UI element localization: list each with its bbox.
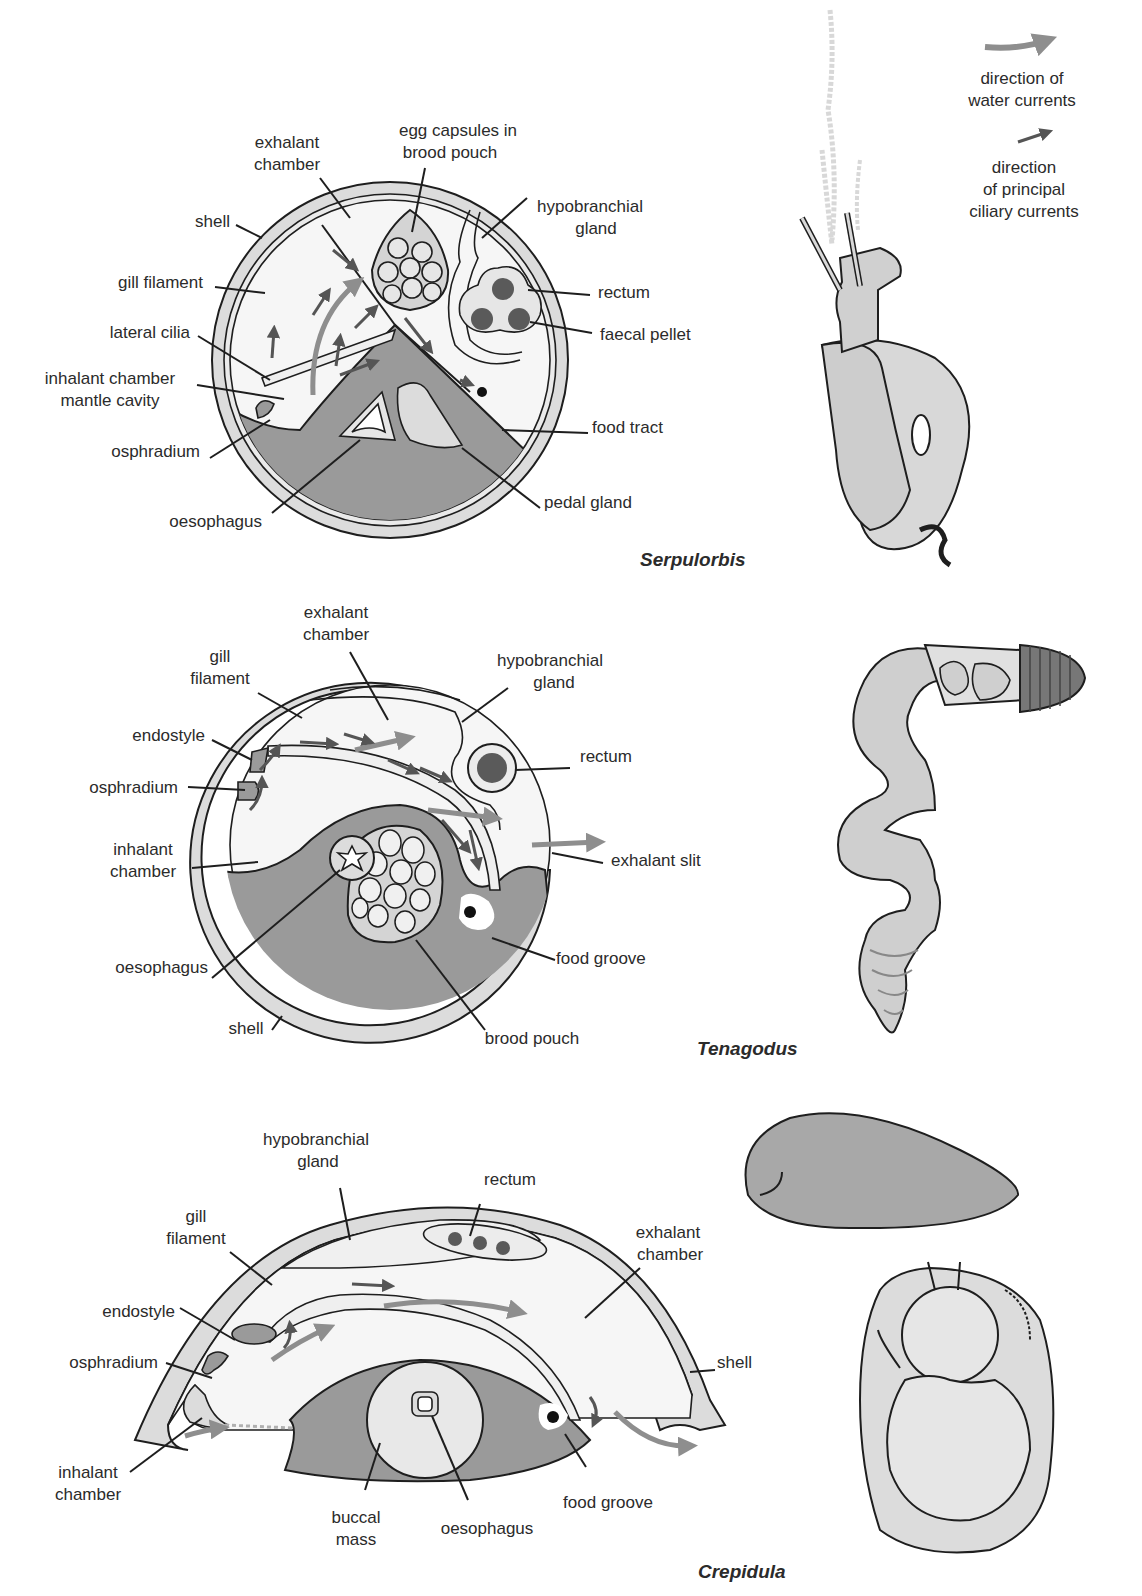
label-egg-capsules: egg capsules in — [399, 121, 517, 140]
label-lateral-cilia: lateral cilia — [110, 323, 191, 342]
label-shell: shell — [717, 1353, 752, 1372]
label-osphradium: osphradium — [111, 442, 200, 461]
faecal-pellet — [448, 1232, 462, 1246]
label-faecal-pellet: faecal pellet — [600, 325, 691, 344]
animal-head — [836, 248, 900, 352]
mucus-thread — [857, 160, 860, 230]
label-brood-pouch: brood pouch — [485, 1029, 580, 1048]
svg-text:hypobranchialgland: hypobranchialgland — [497, 651, 603, 692]
tenagodus-illustration — [838, 645, 1085, 1033]
label-gill-filament: gill — [210, 647, 231, 666]
svg-text:inhalantchamber: inhalantchamber — [110, 840, 176, 881]
faecal-pellet — [471, 308, 493, 330]
svg-text:exhalantchamber: exhalantchamber — [254, 133, 320, 174]
label-rectum: rectum — [580, 747, 632, 766]
label-gill-filament: gill filament — [118, 273, 203, 292]
tenagodus-section: exhalantchamber gillfilament hypobranchi… — [89, 603, 797, 1059]
rectum-lumen — [477, 753, 507, 783]
label-oesophagus: oesophagus — [115, 958, 208, 977]
mucus-thread — [822, 150, 832, 245]
label-inhalant-chamber: inhalant chamber — [45, 369, 176, 388]
label-gill-filament-2: filament — [190, 669, 250, 688]
label-endostyle: endostyle — [102, 1302, 175, 1321]
svg-text:exhalantchamber: exhalantchamber — [636, 1223, 704, 1264]
label-exhalant-chamber-2: chamber — [254, 155, 320, 174]
label-hypobranchial-gland-2: gland — [575, 219, 617, 238]
label-hypobranchial-gland-2: gland — [297, 1152, 339, 1171]
label-food-groove: food groove — [556, 949, 646, 968]
svg-text:inhalant chambermantle cavity: inhalant chambermantle cavity — [45, 369, 176, 410]
label-hypobranchial-gland: hypobranchial — [537, 197, 643, 216]
ciliary-current-arrow-icon — [1018, 132, 1048, 142]
label-hypobranchial-gland: hypobranchial — [497, 651, 603, 670]
faecal-pellet — [492, 278, 514, 300]
svg-text:inhalantchamber: inhalantchamber — [55, 1463, 121, 1504]
label-inhalant-chamber-2: chamber — [55, 1485, 121, 1504]
svg-text:hypobranchialgland: hypobranchialgland — [537, 197, 643, 238]
label-exhalant-chamber: exhalant — [255, 133, 320, 152]
food-particle — [477, 387, 487, 397]
svg-text:gillfilament: gillfilament — [166, 1207, 226, 1248]
shell-side-view — [746, 1113, 1019, 1228]
label-inhalant-chamber: inhalant — [58, 1463, 118, 1482]
svg-text:gillfilament: gillfilament — [190, 647, 250, 688]
serpulorbis-illustration — [802, 10, 969, 565]
faecal-pellet — [508, 308, 530, 330]
label-exhalant-chamber-2: chamber — [637, 1245, 703, 1264]
legend-water-line1: direction of — [980, 69, 1063, 88]
label-shell: shell — [229, 1019, 264, 1038]
svg-text:hypobranchialgland: hypobranchialgland — [263, 1130, 369, 1171]
label-egg-capsules-2: brood pouch — [403, 143, 498, 162]
legend: direction ofwater currents directionof p… — [967, 40, 1079, 221]
label-pedal-gland: pedal gland — [544, 493, 632, 512]
shell-aperture-hole — [912, 415, 930, 455]
label-inhalant-chamber: inhalant — [113, 840, 173, 859]
species-name-crepidula: Crepidula — [698, 1561, 786, 1582]
endostyle-shape — [250, 748, 268, 772]
svg-text:directionof principalciliary c: directionof principalciliary currents — [969, 158, 1079, 221]
label-inhalant-chamber-2: mantle cavity — [60, 391, 160, 410]
label-food-groove: food groove — [563, 1493, 653, 1512]
label-osphradium: osphradium — [89, 778, 178, 797]
label-food-tract: food tract — [592, 418, 663, 437]
food-particle — [547, 1411, 559, 1423]
label-exhalant-chamber: exhalant — [304, 603, 369, 622]
species-name-tenagodus: Tenagodus — [697, 1038, 798, 1059]
figure: direction ofwater currents directionof p… — [0, 0, 1142, 1596]
animal-foot — [887, 1376, 1030, 1520]
label-hypobranchial-gland: hypobranchial — [263, 1130, 369, 1149]
label-oesophagus: oesophagus — [169, 512, 262, 531]
buccal-mass-shape — [367, 1362, 483, 1478]
label-hypobranchial-gland-2: gland — [533, 673, 575, 692]
crepidula-section: hypobranchialgland rectum gillfilament e… — [55, 1130, 786, 1582]
legend-ciliary-line1: direction — [992, 158, 1056, 177]
svg-text:exhalantchamber: exhalantchamber — [303, 603, 369, 644]
label-gill-filament: gill — [186, 1207, 207, 1226]
label-rectum: rectum — [598, 283, 650, 302]
serpulorbis-section: exhalantchamber egg capsules inbrood pou… — [45, 121, 746, 570]
crepidula-illustration — [746, 1113, 1054, 1552]
label-endostyle: endostyle — [132, 726, 205, 745]
faecal-pellet — [496, 1241, 510, 1255]
endostyle-shape — [232, 1324, 276, 1344]
label-rectum: rectum — [484, 1170, 536, 1189]
svg-text:egg capsules inbrood pouch: egg capsules inbrood pouch — [399, 121, 517, 162]
label-exhalant-slit: exhalant slit — [611, 851, 701, 870]
faecal-pellet — [473, 1236, 487, 1250]
animal-head — [902, 1287, 998, 1383]
water-current-arrow-icon — [985, 40, 1048, 48]
label-buccal-mass: buccal — [331, 1508, 380, 1527]
svg-text:direction ofwater currents: direction ofwater currents — [967, 69, 1076, 110]
oesophagus-lumen — [418, 1397, 432, 1411]
species-name-serpulorbis: Serpulorbis — [640, 549, 746, 570]
label-osphradium: osphradium — [69, 1353, 158, 1372]
osphradium-shape — [238, 782, 259, 800]
food-particle — [464, 906, 476, 918]
legend-water-line2: water currents — [967, 91, 1076, 110]
svg-text:buccalmass: buccalmass — [331, 1508, 380, 1549]
label-buccal-mass-2: mass — [336, 1530, 377, 1549]
legend-ciliary-line2: of principal — [983, 180, 1065, 199]
label-oesophagus: oesophagus — [441, 1519, 534, 1538]
label-exhalant-chamber: exhalant — [636, 1223, 701, 1242]
label-gill-filament-2: filament — [166, 1229, 226, 1248]
